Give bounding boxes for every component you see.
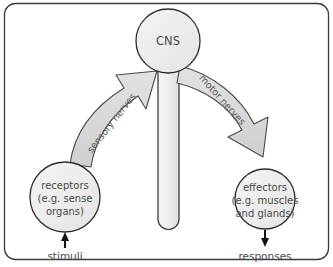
receptors-label-line2: (e.g. sense: [38, 193, 93, 204]
responses-label: responses: [238, 250, 291, 262]
effectors-label-line3: and glands): [235, 208, 294, 219]
cns-label: CNS: [156, 34, 180, 48]
effectors-label-line2: (e.g. muscles: [232, 195, 299, 206]
diagram-canvas: CNS receptors (e.g. sense organs) effect…: [0, 0, 333, 267]
reflex-arc-diagram: CNS receptors (e.g. sense organs) effect…: [0, 0, 333, 267]
effectors-label-line1: effectors: [243, 182, 287, 193]
receptors-label-line1: receptors: [41, 180, 88, 191]
stimuli-label: stimuli: [47, 250, 82, 262]
receptors-label-line3: organs): [46, 206, 84, 217]
